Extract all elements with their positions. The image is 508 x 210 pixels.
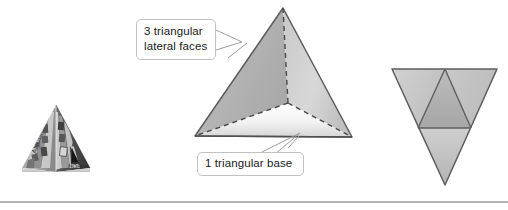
pyramid-net (392, 69, 497, 185)
callout-triangular-base: 1 triangular base (197, 152, 304, 176)
geometry-drawings (0, 0, 508, 210)
triangular-pyramid (195, 8, 352, 137)
figure-canvas: ANUBIS HORUS (0, 0, 508, 210)
callout-lateral-faces: 3 triangular lateral faces (136, 19, 216, 60)
